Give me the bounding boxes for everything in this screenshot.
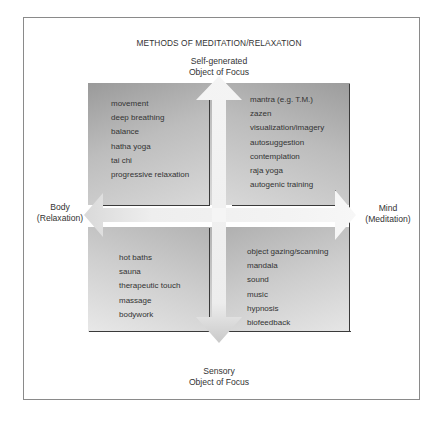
list-item: progressive relaxation [111, 168, 189, 182]
quadrant-list-top-right: mantra (e.g. T.M.) zazen visualization/i… [250, 93, 324, 192]
list-item: sound [247, 273, 328, 287]
axis-label-left-line2: (Relaxation) [28, 213, 92, 224]
list-item: sauna [119, 265, 180, 279]
list-item: visualization/imagery [250, 121, 324, 135]
axis-label-right-line1: Mind [356, 203, 420, 214]
list-item: hatha yoga [111, 140, 189, 154]
list-item: raja yoga [250, 164, 324, 178]
list-item: balance [111, 125, 189, 139]
list-item: autogenic training [250, 178, 324, 192]
list-item: hot baths [119, 251, 180, 265]
list-item: therapeutic touch [119, 279, 180, 293]
list-item: hypnosis [247, 302, 328, 316]
list-item: deep breathing [111, 111, 189, 125]
list-item: zazen [250, 107, 324, 121]
quadrant-list-bottom-left: hot baths sauna therapeutic touch massag… [119, 251, 180, 322]
list-item: object gazing/scanning [247, 245, 328, 259]
quadrant-list-bottom-right: object gazing/scanning mandala sound mus… [247, 245, 328, 330]
list-item: contemplation [250, 150, 324, 164]
axis-label-right-line2: (Meditation) [356, 214, 420, 225]
list-item: mandala [247, 259, 328, 273]
list-item: tai chi [111, 154, 189, 168]
axis-label-right: Mind (Meditation) [356, 203, 420, 225]
list-item: bodywork [119, 308, 180, 322]
axis-label-left: Body (Relaxation) [28, 202, 92, 224]
axis-label-bottom-line2: Object of Focus [119, 377, 319, 388]
list-item: mantra (e.g. T.M.) [250, 93, 324, 107]
axis-label-left-line1: Body [28, 202, 92, 213]
list-item: autosuggestion [250, 136, 324, 150]
list-item: massage [119, 294, 180, 308]
axis-label-bottom-line1: Sensory [119, 366, 319, 377]
list-item: music [247, 288, 328, 302]
list-item: biofeedback [247, 316, 328, 330]
axis-label-bottom: Sensory Object of Focus [119, 366, 319, 388]
list-item: movement [111, 97, 189, 111]
quadrant-list-top-left: movement deep breathing balance hatha yo… [111, 97, 189, 182]
